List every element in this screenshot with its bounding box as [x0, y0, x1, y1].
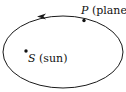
sun-label: S (sun) — [28, 52, 67, 65]
planet-dot — [82, 19, 85, 22]
planet-label: P (planet) — [80, 4, 126, 17]
orbit-diagram: P (planet) S (sun) — [0, 0, 126, 92]
